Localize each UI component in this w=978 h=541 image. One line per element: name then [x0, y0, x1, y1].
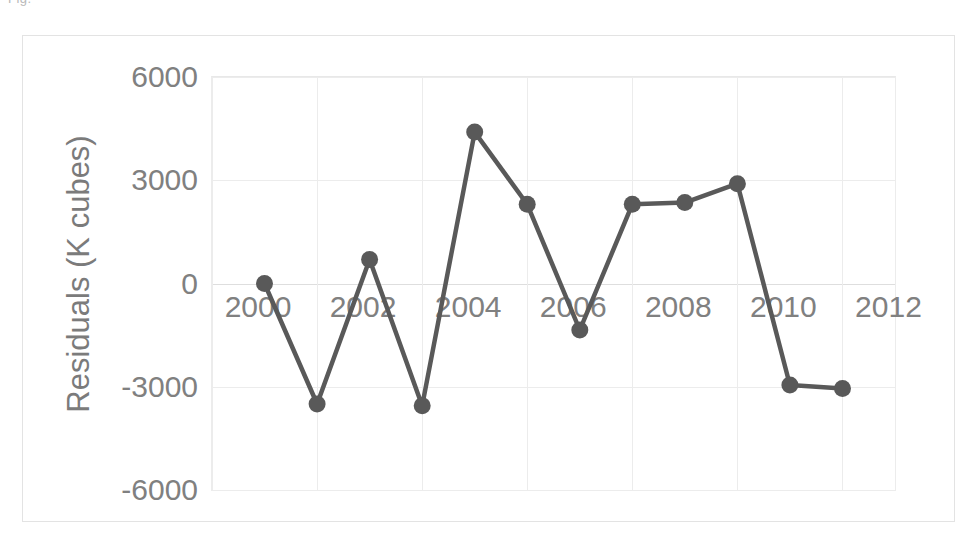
- data-point-marker: [414, 397, 431, 414]
- data-point-marker: [624, 196, 641, 213]
- series-line: [265, 132, 843, 406]
- data-point-marker: [571, 322, 588, 339]
- y-axis-title: Residuals (K cubes): [61, 84, 97, 464]
- top-fragment-text: Fig.: [8, 0, 32, 6]
- data-point-marker: [309, 396, 326, 413]
- data-point-marker: [519, 196, 536, 213]
- y-tick-label: -6000: [121, 473, 198, 507]
- y-gridline: [212, 490, 895, 491]
- data-point-marker: [729, 175, 746, 192]
- y-tick-label: 0: [181, 267, 198, 301]
- plot-area: 600030000-3000-6000200020022004200620082…: [211, 76, 896, 491]
- series-plot: [212, 77, 895, 490]
- y-tick-label: -3000: [121, 370, 198, 404]
- y-tick-label: 3000: [131, 163, 198, 197]
- data-point-marker: [676, 194, 693, 211]
- data-point-marker: [361, 251, 378, 268]
- data-point-marker: [834, 380, 851, 397]
- data-point-marker: [781, 377, 798, 394]
- data-point-marker: [466, 124, 483, 141]
- y-tick-label: 6000: [131, 60, 198, 94]
- chart-frame: Residuals (K cubes) 600030000-3000-60002…: [22, 35, 955, 522]
- data-point-marker: [256, 275, 273, 292]
